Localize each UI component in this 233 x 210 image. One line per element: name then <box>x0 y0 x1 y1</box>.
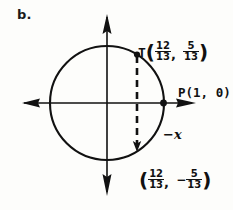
y-axis-bottom-arrowhead <box>103 174 112 196</box>
point-bottom-x-fraction: 12 13 <box>148 169 164 192</box>
y-axis-top-arrowhead <box>103 14 112 34</box>
point-T-y-fraction: 5 13 <box>183 41 199 64</box>
figure-letter: b. <box>17 7 32 22</box>
point-bottom-y-fraction: 5 13 <box>186 169 202 192</box>
point-bottom-y-denominator: 13 <box>186 179 202 191</box>
point-bottom-x-denominator: 13 <box>148 179 164 191</box>
point-bottom-label: ( 12 13 , − 5 13 ) <box>139 169 211 192</box>
point-bottom-y-numerator: 5 <box>186 169 202 180</box>
point-T-comma: , <box>171 47 176 62</box>
point-P-dot <box>160 100 167 107</box>
point-bottom-open-paren: ( <box>139 168 148 192</box>
point-bottom-x-numerator: 12 <box>148 169 164 180</box>
negative-x-axis-label: −x <box>163 128 182 141</box>
point-T-name: T <box>138 45 146 60</box>
point-T-x-denominator: 13 <box>155 51 171 63</box>
point-bottom-comma: , <box>164 175 169 190</box>
figure-container: b. T( 12 13 , 5 13 ) P(1, 0) −x ( 12 13 … <box>0 0 233 210</box>
point-T-close-paren: ) <box>199 40 208 64</box>
point-T-open-paren: ( <box>146 40 155 64</box>
point-P-label: P(1, 0) <box>178 87 231 100</box>
point-bottom-y-sign: − <box>176 173 186 187</box>
point-T-y-denominator: 13 <box>183 51 199 63</box>
x-axis-left-arrowhead <box>22 99 40 108</box>
point-T-x-fraction: 12 13 <box>155 41 171 64</box>
point-T-label: T( 12 13 , 5 13 ) <box>138 41 208 64</box>
point-T-y-numerator: 5 <box>183 41 199 52</box>
point-T-x-numerator: 12 <box>155 41 171 52</box>
point-bottom-close-paren: ) <box>202 168 211 192</box>
